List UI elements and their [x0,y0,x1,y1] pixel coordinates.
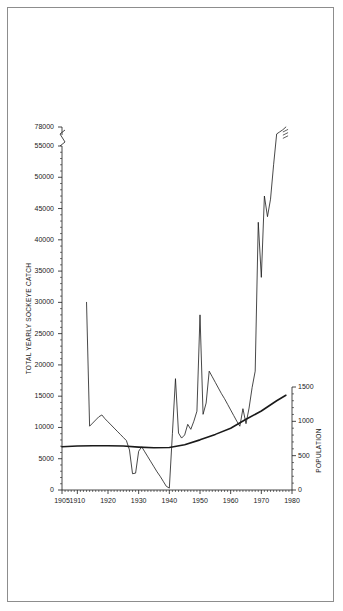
left-tick-78000: 78000 [14,123,54,130]
left-axis-title: TOTAL YEARLY SOCKEYE CATCH [25,229,32,409]
x-tick-1980: 1980 [272,497,312,504]
left-tick-5000: 5000 [14,455,54,462]
left-tick-25000: 25000 [14,330,54,337]
left-tick-35000: 35000 [14,267,54,274]
series-line-catch [87,127,286,488]
chart-canvas [0,0,343,611]
left-tick-40000: 40000 [14,236,54,243]
right-tick-500: 500 [298,452,338,459]
left-tick-30000: 30000 [14,298,54,305]
left-tick-20000: 20000 [14,361,54,368]
left-tick-55000: 55000 [14,142,54,149]
right-tick-1000: 1000 [298,417,338,424]
left-tick-45000: 45000 [14,205,54,212]
left-tick-0: 0 [14,486,54,493]
right-tick-1500: 1500 [298,383,338,390]
right-tick-0: 0 [298,486,338,493]
left-tick-15000: 15000 [14,392,54,399]
left-tick-50000: 50000 [14,173,54,180]
left-tick-10000: 10000 [14,423,54,430]
